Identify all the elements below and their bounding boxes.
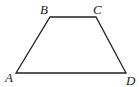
trapezoid-abcd bbox=[16, 17, 126, 73]
vertex-label-a: A bbox=[4, 70, 13, 85]
trapezoid-diagram: A B C D bbox=[0, 0, 139, 87]
vertex-label-b: B bbox=[40, 2, 48, 17]
vertex-label-d: D bbox=[125, 73, 136, 87]
vertex-label-c: C bbox=[93, 2, 102, 17]
